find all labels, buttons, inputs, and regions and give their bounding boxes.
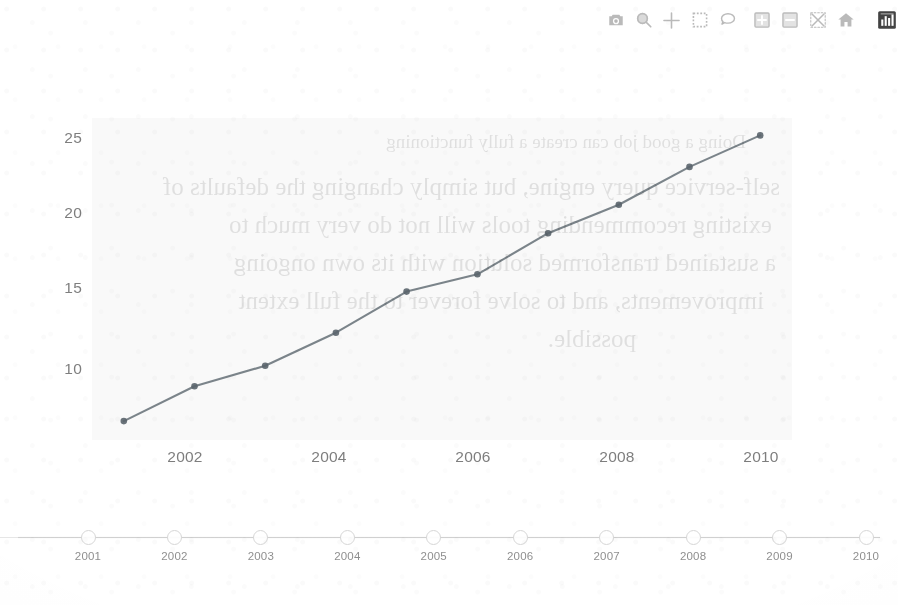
- data-trace[interactable]: [0, 0, 898, 605]
- data-point[interactable]: [474, 271, 481, 278]
- data-point[interactable]: [262, 363, 269, 370]
- range-slider-tick-label: 2007: [577, 550, 637, 562]
- plotly-modebar[interactable]: [606, 10, 897, 30]
- box-select-icon[interactable]: [690, 11, 709, 30]
- range-slider-handle[interactable]: [253, 530, 268, 545]
- range-slider-tick-label: 2009: [750, 550, 810, 562]
- range-slider[interactable]: 2001200220032004200520062007200820092010: [0, 524, 898, 582]
- autoscale-icon[interactable]: [808, 11, 827, 30]
- line-chart-figure: Doing a good job can create a fully func…: [0, 0, 898, 605]
- range-slider-handle[interactable]: [81, 530, 96, 545]
- zoom-magnifier-icon[interactable]: [634, 11, 653, 30]
- range-slider-tick-label: 2004: [317, 550, 377, 562]
- range-slider-handle[interactable]: [426, 530, 441, 545]
- data-point[interactable]: [403, 288, 410, 295]
- range-slider-tick-label: 2008: [663, 550, 723, 562]
- range-slider-handle[interactable]: [686, 530, 701, 545]
- range-slider-handle[interactable]: [772, 530, 787, 545]
- toggle-spikelines-icon[interactable]: [877, 10, 897, 30]
- range-slider-tick-label: 2001: [58, 550, 118, 562]
- data-point[interactable]: [545, 230, 552, 237]
- range-slider-handle[interactable]: [599, 530, 614, 545]
- zoom-in-plus-icon[interactable]: [752, 11, 771, 30]
- range-slider-tick-label: 2002: [144, 550, 204, 562]
- range-slider-handle[interactable]: [513, 530, 528, 545]
- pan-crosshair-icon[interactable]: [662, 11, 681, 30]
- data-point[interactable]: [757, 132, 764, 139]
- data-point[interactable]: [333, 329, 340, 336]
- range-slider-tick-label: 2010: [836, 550, 896, 562]
- range-slider-track-shadow: [18, 536, 880, 539]
- range-slider-handle[interactable]: [167, 530, 182, 545]
- download-plot-camera-icon[interactable]: [606, 11, 625, 30]
- zoom-out-minus-icon[interactable]: [780, 11, 799, 30]
- range-slider-tick-label: 2006: [490, 550, 550, 562]
- reset-axes-home-icon[interactable]: [836, 11, 855, 30]
- range-slider-tick-label: 2005: [404, 550, 464, 562]
- data-point[interactable]: [686, 164, 693, 171]
- data-point[interactable]: [616, 202, 623, 209]
- data-point[interactable]: [121, 418, 128, 425]
- range-slider-tick-label: 2003: [231, 550, 291, 562]
- range-slider-handle[interactable]: [340, 530, 355, 545]
- trace-line: [124, 135, 760, 421]
- lasso-select-icon[interactable]: [718, 11, 737, 30]
- range-slider-handle[interactable]: [859, 530, 874, 545]
- data-point[interactable]: [191, 383, 198, 390]
